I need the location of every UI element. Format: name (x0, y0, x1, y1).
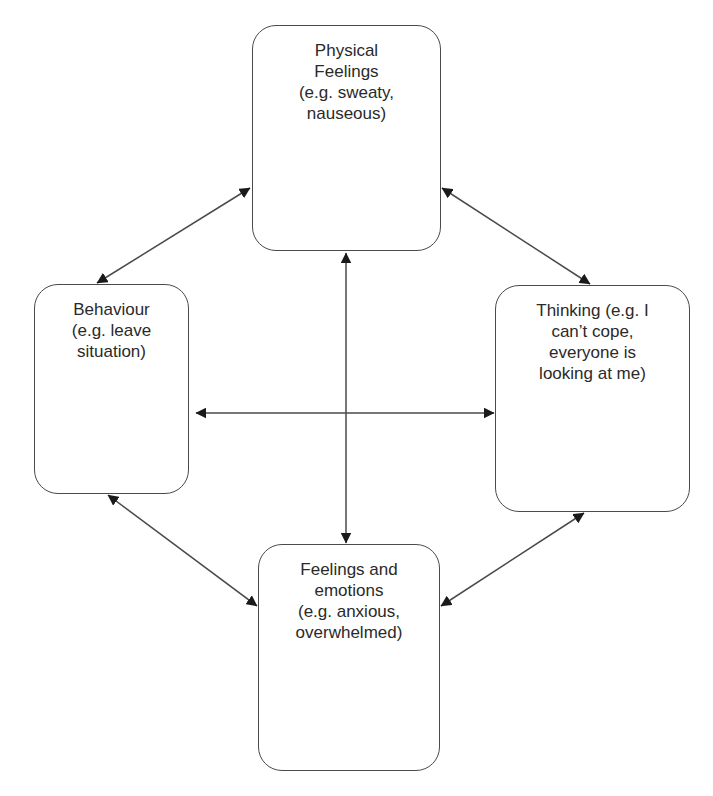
node-physical-feelings: Physical Feelings (e.g. sweaty, nauseous… (252, 25, 441, 251)
node-feelings-emotions-label: Feelings and emotions (e.g. anxious, ove… (259, 559, 439, 643)
node-feelings-emotions: Feelings and emotions (e.g. anxious, ove… (258, 544, 440, 771)
node-physical-feelings-label: Physical Feelings (e.g. sweaty, nauseous… (253, 40, 440, 124)
node-thinking: Thinking (e.g. I can’t cope, everyone is… (495, 285, 690, 512)
node-behaviour: Behaviour (e.g. leave situation) (34, 284, 189, 494)
arrow-behaviour-feelings (108, 495, 257, 606)
arrow-physical-thinking (442, 188, 590, 284)
arrow-physical-behaviour (97, 188, 250, 283)
arrow-thinking-feelings (441, 513, 584, 606)
node-behaviour-label: Behaviour (e.g. leave situation) (35, 299, 188, 362)
cycle-diagram: Physical Feelings (e.g. sweaty, nauseous… (0, 0, 713, 796)
node-thinking-label: Thinking (e.g. I can’t cope, everyone is… (496, 300, 689, 384)
